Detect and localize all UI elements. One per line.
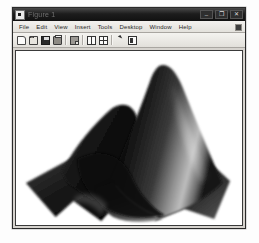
- edit-plot-button[interactable]: [115, 35, 126, 46]
- figure-canvas[interactable]: [15, 50, 243, 226]
- figure-icon: [15, 10, 25, 20]
- matlab-figure-window: Figure 1 – ❐ ✕ File Edit View Insert Too…: [12, 7, 246, 229]
- menu-item-tools[interactable]: Tools: [95, 23, 117, 31]
- open-file-button[interactable]: [28, 35, 39, 46]
- insert-colorbar-button[interactable]: [86, 35, 97, 46]
- menu-item-insert[interactable]: Insert: [72, 23, 95, 31]
- toolbar: [13, 33, 245, 48]
- maximize-button[interactable]: ❐: [215, 10, 228, 19]
- window-controls: – ❐ ✕: [200, 10, 243, 19]
- new-figure-icon: [17, 36, 26, 45]
- colorbar-icon: [87, 36, 96, 45]
- close-icon: ✕: [231, 11, 242, 18]
- title-bar[interactable]: Figure 1 – ❐ ✕: [13, 8, 245, 21]
- legend-grid-icon: [99, 36, 108, 45]
- menu-bar: File Edit View Insert Tools Desktop Wind…: [13, 21, 245, 33]
- plot-tools-button[interactable]: [127, 35, 138, 46]
- link-plot-button[interactable]: [69, 35, 80, 46]
- menu-item-window[interactable]: Window: [146, 23, 175, 31]
- open-folder-icon: [29, 36, 38, 45]
- toolbar-separator-3: [111, 35, 113, 45]
- new-figure-button[interactable]: [16, 35, 27, 46]
- menu-item-help[interactable]: Help: [176, 23, 196, 31]
- minimize-icon: –: [201, 12, 212, 19]
- menu-item-edit[interactable]: Edit: [33, 23, 51, 31]
- insert-legend-button[interactable]: [98, 35, 109, 46]
- window-title: Figure 1: [28, 10, 200, 19]
- menu-item-desktop[interactable]: Desktop: [116, 23, 146, 31]
- close-button[interactable]: ✕: [230, 10, 243, 19]
- pointer-arrow-icon: [116, 36, 125, 45]
- page-root: Figure 1 – ❐ ✕ File Edit View Insert Too…: [0, 0, 259, 243]
- plot-tools-icon: [128, 36, 137, 45]
- link-plot-icon: [70, 36, 79, 45]
- save-floppy-icon: [41, 36, 50, 45]
- dock-arrow-icon[interactable]: [235, 24, 242, 31]
- toolbar-separator-2: [82, 35, 84, 45]
- print-figure-button[interactable]: [52, 35, 63, 46]
- menu-item-view[interactable]: View: [51, 23, 72, 31]
- l-shaped-membrane-surface: [16, 51, 242, 225]
- minimize-button[interactable]: –: [200, 10, 213, 19]
- save-figure-button[interactable]: [40, 35, 51, 46]
- maximize-icon: ❐: [216, 11, 227, 18]
- print-icon: [53, 36, 62, 45]
- toolbar-separator-1: [65, 35, 67, 45]
- menu-item-file[interactable]: File: [16, 23, 33, 31]
